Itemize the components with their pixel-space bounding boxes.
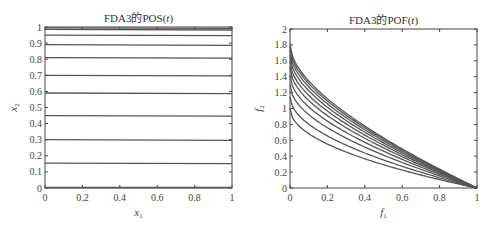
y-tick-label: 0.5 [30, 102, 43, 113]
pof-curve [290, 67, 477, 188]
pos-line [45, 29, 232, 30]
pof-curve [290, 61, 477, 188]
y-tick-label: 1 [37, 22, 42, 33]
pos-line [45, 58, 232, 59]
y-tick-label: 1.2 [275, 87, 288, 98]
chart-title: FDA3的POS(t) [104, 11, 173, 25]
y-tick-label: 0 [282, 183, 287, 194]
x-tick-label: 0 [43, 192, 48, 203]
y-tick-label: 0.6 [275, 135, 288, 146]
chart-title: FDA3的POF(t) [349, 13, 418, 27]
x-tick-label: 0.4 [359, 192, 372, 203]
pos-line [45, 45, 232, 46]
y-tick-label: 1.4 [275, 71, 288, 82]
y-tick-label: 0.4 [30, 118, 43, 129]
y-tick-label: 0.2 [275, 167, 288, 178]
pof-chart: 00.20.40.60.8100.20.40.60.811.21.41.61.8… [252, 13, 480, 220]
y-tick-label: 2 [282, 24, 287, 35]
x-tick-label: 0.6 [396, 192, 409, 203]
pos-line [45, 140, 232, 141]
y-tick-label: 1.6 [275, 55, 288, 66]
x-tick-label: 1 [230, 192, 235, 203]
chart-canvas: 00.20.40.60.8100.10.20.30.40.50.60.70.80… [0, 0, 488, 232]
pos-line [45, 163, 232, 164]
y-axis-label: x2 [7, 103, 21, 113]
y-tick-label: 0.8 [30, 54, 43, 65]
y-tick-label: 0.2 [30, 150, 43, 161]
x-tick-label: 0 [288, 192, 293, 203]
pof-curve [290, 51, 477, 189]
pos-line [45, 28, 232, 29]
y-tick-label: 0.7 [30, 70, 43, 81]
x-axis-label: f1 [380, 206, 387, 220]
x-tick-label: 0.2 [76, 192, 89, 203]
y-tick-label: 0.8 [275, 119, 288, 130]
y-axis-label: f2 [252, 105, 266, 112]
y-tick-label: 0.4 [275, 151, 288, 162]
y-tick-label: 1 [282, 103, 287, 114]
pos-line [45, 116, 232, 117]
x-tick-label: 0.8 [188, 192, 201, 203]
x-tick-label: 0.2 [321, 192, 334, 203]
y-tick-label: 0.9 [30, 38, 43, 49]
x-tick-label: 0.4 [114, 192, 127, 203]
y-tick-label: 0.6 [30, 86, 43, 97]
pos-line [45, 93, 232, 94]
y-tick-label: 1.8 [275, 39, 288, 50]
pos-line [45, 35, 232, 36]
x-tick-label: 1 [475, 192, 480, 203]
x-axis-label: x1 [133, 206, 143, 220]
x-tick-label: 0.8 [433, 192, 446, 203]
y-tick-label: 0 [37, 183, 42, 194]
x-tick-label: 0.6 [151, 192, 164, 203]
pof-curve [290, 43, 477, 188]
pos-chart: 00.20.40.60.8100.10.20.30.40.50.60.70.80… [7, 11, 235, 220]
pof-curve [290, 47, 477, 189]
y-tick-label: 0.1 [30, 166, 43, 177]
y-tick-label: 0.3 [30, 134, 43, 145]
pos-line [45, 75, 232, 76]
